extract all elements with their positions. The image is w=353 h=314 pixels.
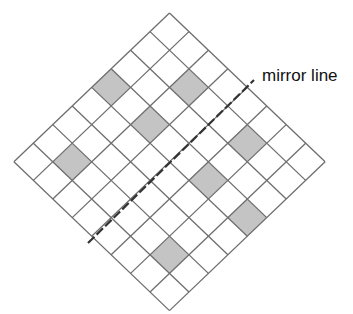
shaded-cell	[53, 143, 92, 180]
shaded-cell	[150, 236, 189, 273]
shaded-cell	[92, 69, 131, 106]
shaded-cell	[170, 69, 209, 106]
shaded-cell	[189, 162, 228, 199]
diamond-grid	[0, 0, 353, 314]
shaded-cell	[131, 106, 170, 143]
shaded-cell	[228, 125, 267, 162]
mirror-line-label: mirror line	[262, 66, 338, 86]
shaded-cell	[228, 199, 267, 236]
diagram-canvas: mirror line	[0, 0, 353, 314]
